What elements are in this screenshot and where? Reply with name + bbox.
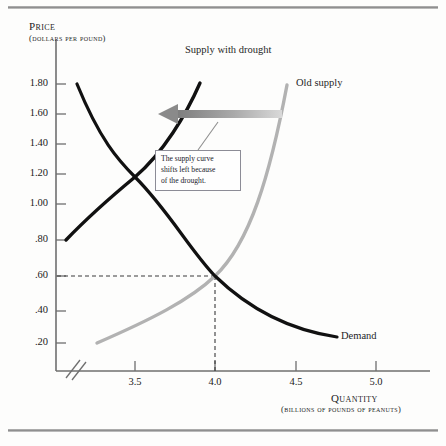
- y-tick-label: .40: [18, 304, 48, 315]
- x-tick-label: 4.0: [200, 376, 230, 387]
- y-tick-label: 1.40: [18, 137, 48, 148]
- axis-lines: [56, 40, 430, 371]
- x-axis-subtitle: (billions of pounds of peanuts): [281, 404, 401, 414]
- y-tick-label: .20: [18, 336, 48, 347]
- x-axis-title: Quantity: [331, 392, 378, 404]
- y-tick-label: .60: [18, 269, 48, 280]
- supply-shift-arrow-icon: [158, 104, 282, 124]
- old-supply-curve: [97, 85, 287, 343]
- supply-demand-figure: Price (dollars per pound) Quantity (bill…: [0, 0, 446, 446]
- demand-curve: [77, 84, 337, 337]
- y-tick-label: 1.20: [18, 167, 48, 178]
- x-tick-label: 5.0: [361, 376, 391, 387]
- callout-line-3: of the drought.: [161, 176, 236, 187]
- callout-line-2: shifts left because: [161, 165, 236, 176]
- y-axis-ticks: [56, 84, 66, 343]
- x-tick-label: 4.5: [281, 376, 311, 387]
- x-tick-label: 3.5: [120, 376, 150, 387]
- supply-with-drought-label: Supply with drought: [185, 44, 271, 55]
- callout-leader-line: [198, 122, 218, 150]
- y-tick-label: 1.60: [18, 107, 48, 118]
- x-axis-ticks: [135, 361, 376, 371]
- y-axis-title: Price: [29, 20, 55, 32]
- demand-label: Demand: [341, 330, 377, 341]
- callout-line-1: The supply curve: [161, 154, 236, 165]
- y-tick-label: 1.80: [18, 77, 48, 88]
- y-tick-label: .80: [18, 233, 48, 244]
- y-tick-label: 1.00: [18, 197, 48, 208]
- old-supply-label: Old supply: [296, 77, 342, 88]
- x-axis-break-mark: [66, 360, 86, 380]
- drought-callout-box: The supply curve shifts left because of …: [155, 150, 241, 191]
- y-axis-subtitle: (dollars per pound): [29, 33, 106, 43]
